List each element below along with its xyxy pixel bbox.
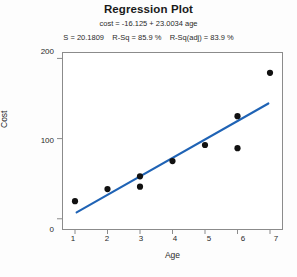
chart-title: Regression Plot [0,3,297,15]
y-tick-label: 0 [24,225,54,234]
x-tick-label: 7 [269,234,283,243]
x-tick-label: 6 [236,234,250,243]
x-tick-label: 5 [202,234,216,243]
x-tick-label: 1 [66,234,80,243]
x-tick-label: 2 [100,234,114,243]
x-axis-label: Age [62,250,283,260]
plot-frame [62,52,283,230]
y-axis-label: Cost [0,111,9,128]
regression-plot-figure: Regression Plot cost = -16.125 + 23.0034… [0,0,297,277]
x-tick-label: 3 [134,234,148,243]
regression-equation: cost = -16.125 + 23.0034 age [0,19,297,28]
regression-statistics: S = 20.1809 R-Sq = 85.9 % R-Sq(adj) = 83… [0,33,297,42]
x-tick-label: 4 [168,234,182,243]
y-tick-label: 200 [24,47,54,56]
y-tick-label: 100 [24,136,54,145]
